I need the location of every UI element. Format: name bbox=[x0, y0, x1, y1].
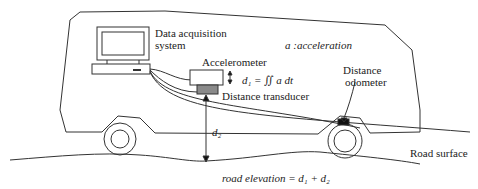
accelerometer-box bbox=[190, 70, 223, 85]
label-d1-formula: d₁ = ∬ a dt bbox=[242, 74, 293, 86]
label-system: system bbox=[155, 39, 186, 51]
label-d2: d₂ bbox=[212, 126, 221, 138]
label-acceleration: a :acceleration bbox=[285, 39, 352, 51]
road-surface-line bbox=[10, 152, 420, 164]
label-data-acquisition: Data acquisition bbox=[155, 27, 227, 39]
label-distance-transducer: Distance transducer bbox=[222, 90, 309, 102]
road-profiler-diagram: Data acquisition system a :acceleration … bbox=[0, 0, 478, 189]
label-road-elevation: road elevation = d₁ + d₂ bbox=[222, 172, 330, 184]
distance-transducer bbox=[197, 85, 218, 94]
label-distance: Distance bbox=[343, 64, 381, 76]
label-odometer: odometer bbox=[345, 76, 387, 88]
label-road-surface: Road surface bbox=[410, 147, 468, 159]
label-accelerometer: Accelerometer bbox=[202, 56, 267, 68]
computer-base bbox=[92, 64, 150, 74]
